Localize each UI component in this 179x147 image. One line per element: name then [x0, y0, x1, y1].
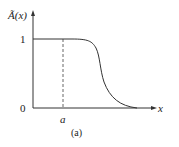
- y-axis-arrow-icon: [31, 10, 35, 16]
- y-tick-1: 1: [20, 33, 26, 45]
- membership-curve: [33, 39, 137, 108]
- y-tick-0: 0: [20, 102, 26, 114]
- figure-caption: (a): [71, 127, 82, 139]
- membership-function-chart: Ã(x) 1 0 a x (a): [0, 0, 179, 147]
- y-axis-label: Ã(x): [7, 9, 27, 22]
- x-axis-arrow-icon: [151, 106, 157, 110]
- x-tick-a: a: [60, 113, 66, 125]
- x-axis-label: x: [157, 102, 163, 114]
